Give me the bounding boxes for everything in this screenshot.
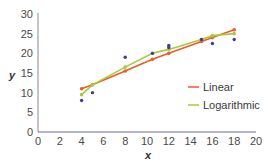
trend-marker [151, 57, 155, 61]
trend-marker [80, 87, 84, 91]
trend-marker [211, 34, 215, 38]
x-tick-label: 20 [250, 135, 262, 147]
trend-marker [167, 52, 171, 56]
legend-item-linear: Linear [188, 81, 234, 93]
x-tick-label: 12 [163, 135, 175, 147]
y-tick-label: 25 [21, 28, 33, 40]
y-tick-label: 30 [21, 8, 33, 20]
data-point [91, 91, 94, 94]
y-tick-label: 0 [27, 126, 33, 138]
data-point [151, 52, 154, 55]
trend-marker [232, 28, 236, 32]
y-tick-label: 15 [21, 67, 33, 79]
data-point [124, 56, 127, 59]
x-tick-label: 10 [141, 135, 153, 147]
x-tick-label: 18 [228, 135, 240, 147]
legend-item-logarithmic: Logarithmic [188, 99, 260, 111]
x-tick-label: 0 [35, 135, 41, 147]
data-point [233, 38, 236, 41]
data-point [80, 99, 83, 102]
x-tick-label: 6 [100, 135, 106, 147]
data-point [200, 38, 203, 41]
trend-marker [123, 69, 127, 73]
data-point [211, 42, 214, 45]
y-axis-label: y [8, 69, 16, 81]
legend-label-logarithmic: Logarithmic [203, 99, 260, 111]
trend-marker [232, 32, 236, 36]
x-tick-label: 2 [57, 135, 63, 147]
x-axis-label: x [144, 149, 152, 161]
x-tick-label: 4 [79, 135, 85, 147]
y-axis-ticks: 051015202530 [21, 8, 33, 138]
legend-label-linear: Linear [203, 81, 234, 93]
x-tick-label: 16 [206, 135, 218, 147]
y-tick-label: 10 [21, 87, 33, 99]
chart: 051015202530 02468101214161820 y x Linea… [0, 0, 272, 165]
x-tick-label: 14 [184, 135, 196, 147]
trend-marker [123, 65, 127, 69]
x-axis-ticks: 02468101214161820 [35, 135, 262, 147]
y-tick-label: 5 [27, 106, 33, 118]
trend-marker [80, 93, 84, 97]
x-tick-label: 8 [122, 135, 128, 147]
y-tick-label: 20 [21, 47, 33, 59]
legend: Linear Logarithmic [188, 81, 260, 111]
data-point [167, 46, 170, 49]
trend-marker [91, 83, 95, 87]
